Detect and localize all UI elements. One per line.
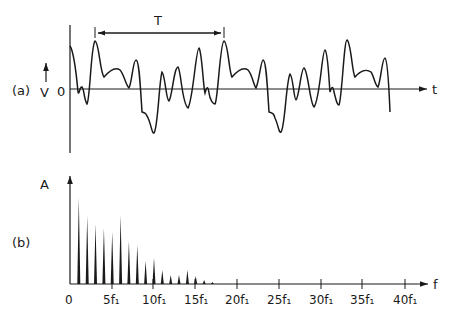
panel-b: A (b) f [12,176,438,307]
spectrum-lines [77,198,214,284]
panel-a-label: (a) [12,83,30,98]
tick-5f1: 5f₁ [103,293,120,307]
tick-25f1: 25f₁ [267,293,291,307]
tick-10f1: 10f₁ [142,293,166,307]
panel-b-label: (b) [12,235,30,250]
tick-30f1: 30f₁ [309,293,333,307]
f-axis-tick-labels: 0 5f₁ 10f₁ 15f₁ 20f₁ 25f₁ 30f₁ 35f₁ 40f₁ [65,293,417,307]
tick-15f1: 15f₁ [184,293,208,307]
v-axis-label: V [40,85,49,100]
t-axis-label: t [432,82,437,97]
panel-a: (a) V 0 t T [12,13,437,153]
f-axis-label: f [433,277,438,292]
tick-0: 0 [65,293,73,307]
tick-20f1: 20f₁ [225,293,249,307]
period-label: T [153,13,162,28]
waveform-curve [70,40,390,133]
tick-35f1: 35f₁ [350,293,374,307]
origin-label: 0 [57,84,65,99]
figure: (a) V 0 t T A (b) f [0,0,453,318]
a-axis-label: A [40,177,49,192]
tick-40f1: 40f₁ [393,293,417,307]
